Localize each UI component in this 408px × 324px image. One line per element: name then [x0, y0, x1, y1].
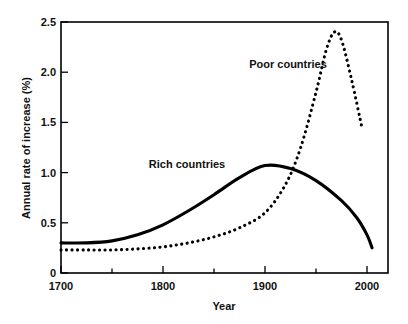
y-axis-ticks [61, 22, 68, 273]
chart-figure: 0 0.5 1.0 1.5 2.0 2.5 Annual rate of inc… [0, 0, 408, 324]
y-tick-label-2-5: 2.5 [41, 16, 56, 28]
x-axis-ticks [61, 266, 367, 273]
y-axis-title: Annual rate of increase (%) [20, 77, 32, 219]
y-axis-labels: 0 0.5 1.0 1.5 2.0 2.5 [41, 16, 56, 279]
y-tick-label-0: 0 [50, 267, 56, 279]
y-tick-label-1-5: 1.5 [41, 116, 56, 128]
x-tick-label-1800: 1800 [151, 280, 175, 292]
x-tick-label-2000: 2000 [355, 280, 379, 292]
series-annotation-poor-countries: Poor countries [249, 58, 327, 70]
y-tick-label-0-5: 0.5 [41, 217, 56, 229]
x-axis-labels: 1700 1800 1900 2000 [49, 280, 379, 292]
series-line-rich-countries [61, 165, 372, 248]
y-tick-label-2-0: 2.0 [41, 66, 56, 78]
x-tick-label-1700: 1700 [49, 280, 73, 292]
x-axis-title: Year [212, 300, 236, 312]
plot-frame [61, 22, 388, 273]
line-chart: 0 0.5 1.0 1.5 2.0 2.5 Annual rate of inc… [0, 0, 408, 324]
series-annotation-rich-countries: Rich countries [149, 158, 225, 170]
y-tick-label-1-0: 1.0 [41, 167, 56, 179]
x-tick-label-1900: 1900 [253, 280, 277, 292]
